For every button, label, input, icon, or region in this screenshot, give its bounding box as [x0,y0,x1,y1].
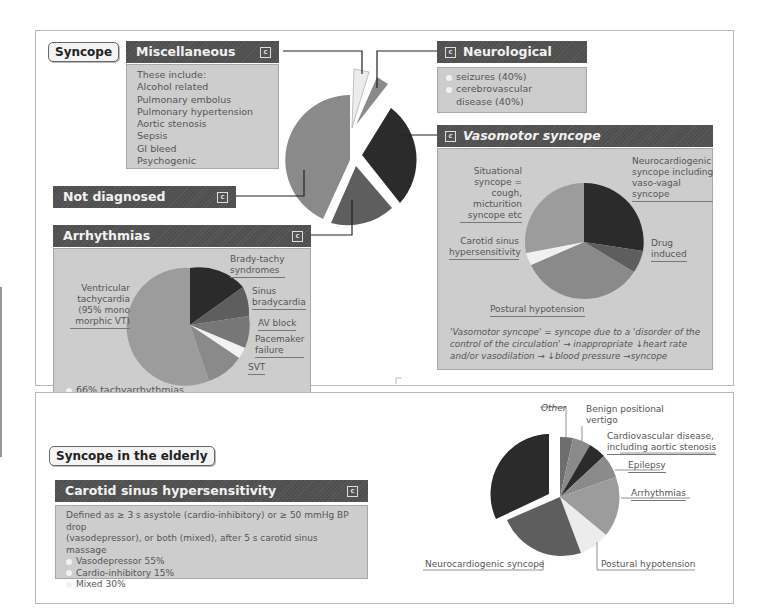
elderly-label-other: Other [541,403,567,414]
elderly-pie-chart [0,0,764,614]
elderly-label-cvd: Cardiovascular disease, including aortic… [607,431,716,455]
elderly-label-neurocardiogenic: Neurocardiogenic syncope [425,559,544,570]
elderly-label-arrhythmias: Arrhythmias [631,488,686,501]
elderly-label-postural: Postural hypotension [601,559,696,570]
elderly-label-epilepsy: Epilepsy [628,460,666,473]
elderly-label-bpv: Benign positional vertigo [586,404,664,426]
